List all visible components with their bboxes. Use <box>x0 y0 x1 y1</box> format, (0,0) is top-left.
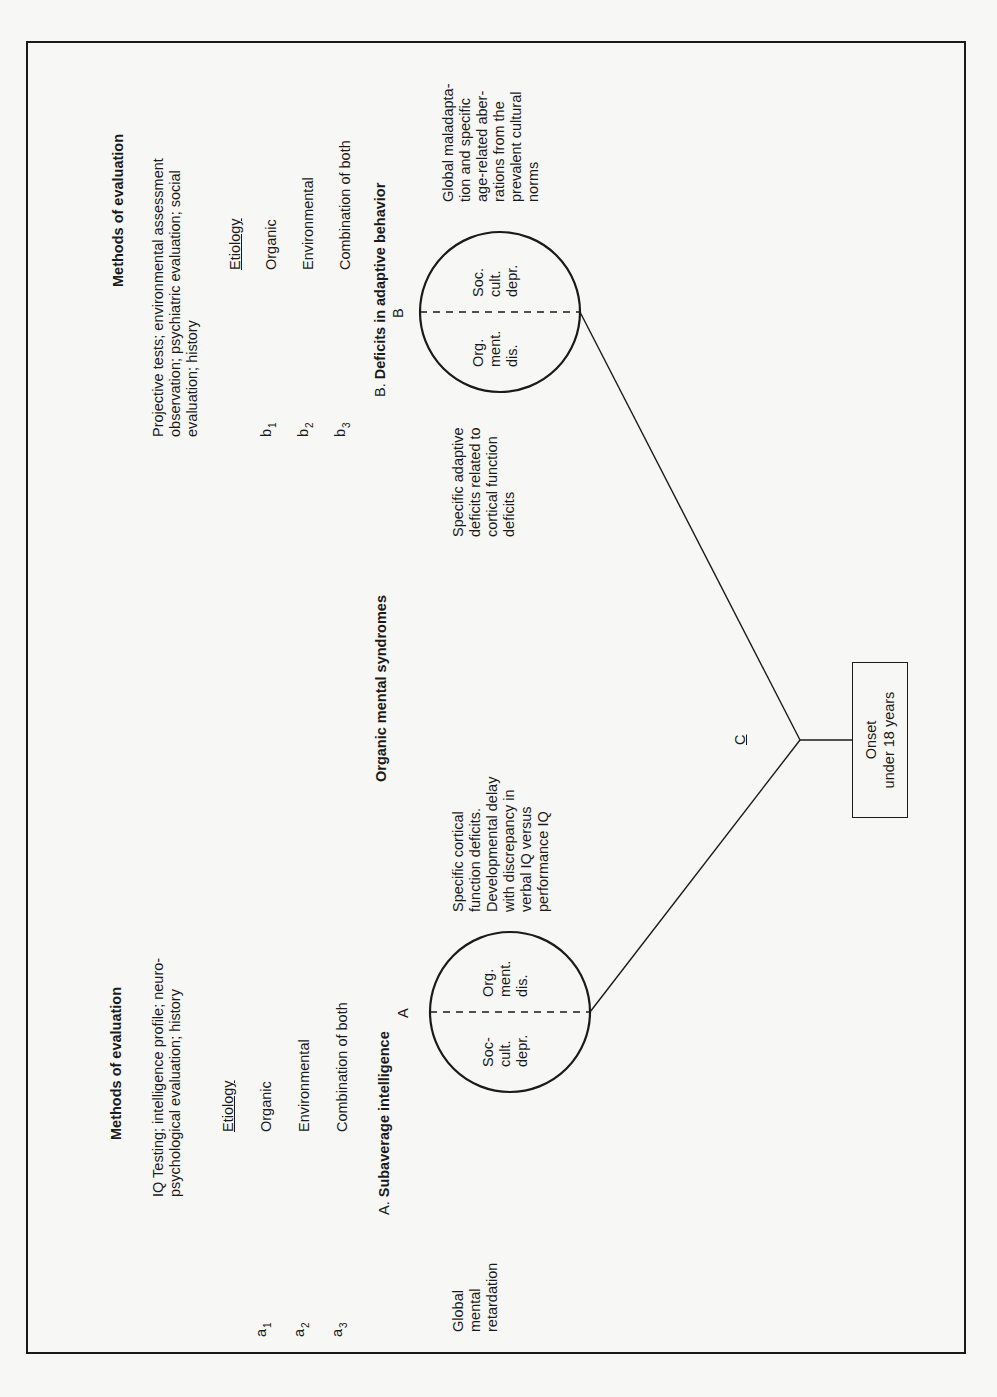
right-etiology-label-1: b1 <box>258 422 276 437</box>
left-etiology-label-2: a2 <box>291 1322 309 1337</box>
right-etiology-1: Organic <box>263 219 280 270</box>
right-etiology-header: Etiology <box>227 218 244 270</box>
circle-b-letter: B <box>390 308 407 318</box>
left-methods-line-2: psychological evaluation; history <box>167 989 184 1197</box>
left-methods-line-1: IQ Testing; intelligence profile; neuro- <box>150 958 167 1197</box>
left-axis-heading: A. Subaverage intelligence <box>376 1031 393 1215</box>
right-etiology-label-2: b2 <box>295 422 313 437</box>
right-methods-title: Methods of evaluation <box>110 134 127 287</box>
left-etiology-header: Etiology <box>220 1080 237 1132</box>
right-outer-right-text: Global maladapta- tion and specific age-… <box>440 84 542 203</box>
left-outer-right-text: Specific cortical function deficits. Dev… <box>450 777 552 912</box>
circle-a-letter: A <box>395 1008 412 1018</box>
circle-a-left-text: Soc- cult. depr. <box>480 1035 531 1067</box>
left-etiology-1: Organic <box>258 1081 275 1132</box>
right-methods-line-2: observation; psychiatric evaluation; soc… <box>167 170 184 437</box>
center-title: Organic mental syndromes <box>373 595 390 782</box>
right-axis-heading: B. Deficits in adaptive behavior <box>372 183 389 397</box>
left-etiology-2: Environmental <box>296 1039 313 1132</box>
left-etiology-label-1: a1 <box>253 1322 271 1337</box>
rotated-figure: Methods of evaluation IQ Testing; intell… <box>0 0 997 1397</box>
left-etiology-3: Combination of both <box>334 1002 351 1132</box>
right-methods-line-1: Projective tests; environmental assessme… <box>150 158 167 437</box>
left-etiology-label-3: a3 <box>329 1322 347 1337</box>
onset-box: Onset under 18 years <box>852 662 908 818</box>
right-etiology-label-3: b3 <box>332 422 350 437</box>
circle-a-right-text: Org. ment. dis. <box>480 961 531 997</box>
circle-b-left-text: Org. ment. dis. <box>470 331 521 367</box>
right-etiology-3: Combination of both <box>337 140 354 270</box>
right-outer-left-text: Specific adaptive deficits related to co… <box>450 427 518 537</box>
line-a-to-c <box>590 740 800 1012</box>
left-methods-title: Methods of evaluation <box>108 987 125 1140</box>
left-outer-left-text: Global mental retardation <box>450 1263 501 1332</box>
right-methods-line-3: evaluation; history <box>184 320 201 437</box>
line-b-to-c <box>580 312 800 740</box>
circle-b-right-text: Soc. cult. depr. <box>470 265 521 297</box>
vertex-label-c: C <box>732 735 749 745</box>
right-etiology-2: Environmental <box>300 177 317 270</box>
